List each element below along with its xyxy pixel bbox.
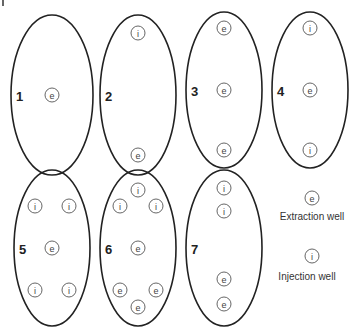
well-symbol: e <box>309 194 314 204</box>
well-symbol: e <box>221 300 226 310</box>
well-symbol: i <box>137 186 139 196</box>
legend-injection-label: Injection well <box>278 271 335 282</box>
well-symbol: e <box>117 286 122 296</box>
well-symbol: i <box>119 202 121 212</box>
injection-well: i <box>28 199 42 213</box>
injection-well: i <box>217 204 231 218</box>
extraction-well: e <box>45 241 59 255</box>
pattern-number: 3 <box>191 84 198 99</box>
well-symbol: e <box>49 91 54 101</box>
extraction-well-symbol: e <box>305 191 319 205</box>
well-symbol: e <box>49 244 54 254</box>
pattern-7: 7iiee <box>186 170 262 326</box>
legend-extraction-label: Extraction well <box>280 211 344 222</box>
pattern-5: 5iieii <box>14 170 90 326</box>
extraction-well: e <box>217 143 231 157</box>
injection-well: i <box>62 199 76 213</box>
well-symbol: i <box>34 286 36 296</box>
injection-well: i <box>62 283 76 297</box>
extraction-well: e <box>131 300 145 314</box>
extraction-well: e <box>217 83 231 97</box>
extraction-well: e <box>113 283 127 297</box>
pattern-4: 4iei <box>272 12 348 168</box>
well-symbol: i <box>223 207 225 217</box>
well-pattern-diagram: 1e2ie3eee4iei5iieii6iiieeee7iieeeExtract… <box>0 0 364 334</box>
legend-extraction: eExtraction well <box>280 191 344 222</box>
extraction-well: e <box>217 297 231 311</box>
well-symbol: e <box>135 151 140 161</box>
extraction-well: e <box>217 272 231 286</box>
well-symbol: e <box>135 303 140 313</box>
well-symbol: i <box>223 184 225 194</box>
injection-well: i <box>131 26 145 40</box>
well-symbol: e <box>221 146 226 156</box>
well-symbol: e <box>221 24 226 34</box>
pattern-2: 2ie <box>100 15 176 175</box>
extraction-well: e <box>131 148 145 162</box>
well-symbol: i <box>309 146 311 156</box>
legend-injection: iInjection well <box>278 249 335 282</box>
well-symbol: i <box>137 29 139 39</box>
well-symbol: i <box>34 202 36 212</box>
well-symbol: i <box>68 286 70 296</box>
well-symbol: e <box>135 244 140 254</box>
injection-well: i <box>113 199 127 213</box>
injection-well: i <box>303 143 317 157</box>
well-symbol: e <box>221 275 226 285</box>
legend: eExtraction welliInjection well <box>278 191 344 282</box>
pattern-6: 6iiieeee <box>100 170 176 326</box>
extraction-well: e <box>45 88 59 102</box>
pattern-number: 4 <box>277 84 285 99</box>
injection-well-symbol: i <box>305 249 319 263</box>
pattern-number: 7 <box>191 242 198 257</box>
well-symbol: i <box>311 252 313 262</box>
extraction-well: e <box>131 241 145 255</box>
well-symbol: i <box>155 202 157 212</box>
pattern-number: 2 <box>105 89 112 104</box>
injection-well: i <box>131 183 145 197</box>
well-symbol: i <box>309 24 311 34</box>
injection-well: i <box>217 181 231 195</box>
pattern-number: 1 <box>16 89 23 104</box>
well-symbol: i <box>68 202 70 212</box>
injection-well: i <box>149 199 163 213</box>
extraction-well: e <box>149 283 163 297</box>
extraction-well: e <box>303 83 317 97</box>
injection-well: i <box>28 283 42 297</box>
pattern-1: 1e <box>11 15 93 175</box>
well-symbol: e <box>153 286 158 296</box>
well-symbol: e <box>221 86 226 96</box>
extraction-well: e <box>217 21 231 35</box>
pattern-number: 5 <box>19 242 26 257</box>
well-symbol: e <box>307 86 312 96</box>
pattern-3: 3eee <box>186 12 262 168</box>
pattern-number: 6 <box>105 242 112 257</box>
injection-well: i <box>303 21 317 35</box>
